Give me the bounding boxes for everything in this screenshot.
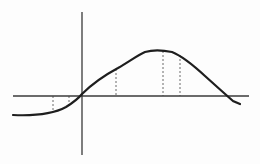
function-curve bbox=[13, 51, 240, 116]
graph-svg bbox=[0, 0, 260, 164]
function-graph-diagram bbox=[0, 0, 260, 164]
